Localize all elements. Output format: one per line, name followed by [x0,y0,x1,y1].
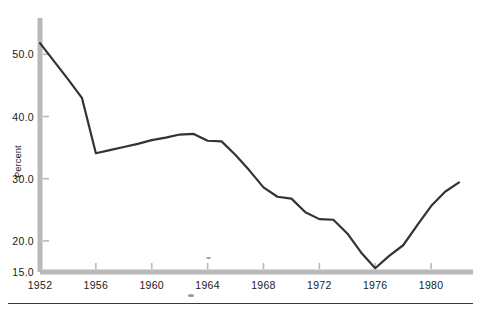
y-tick-label: 20.0 [0,235,34,247]
data-series-line [40,43,459,268]
y-tick-label: 40.0 [0,111,34,123]
y-tick-label: 15.0 [0,266,34,278]
x-tick-label: 1968 [240,279,286,291]
line-chart-plot [0,0,481,312]
x-tick-label: 1980 [408,279,454,291]
x-tick-label: 1976 [352,279,398,291]
chart-figure: Percent 15.020.030.040.050.0 19521956196… [0,0,481,312]
axis-lines [40,18,473,272]
x-tick-label: 1956 [73,279,119,291]
scan-speck [188,294,194,297]
x-tick-label: 1952 [17,279,63,291]
x-tick-label: 1964 [185,279,231,291]
x-tick-label: 1972 [296,279,342,291]
x-tick-label: 1960 [129,279,175,291]
y-tick-label: 50.0 [0,48,34,60]
y-tick-label: 30.0 [0,173,34,185]
footer-divider [8,303,473,304]
y-axis-tick-marks [43,54,49,241]
scan-speck [206,257,211,259]
